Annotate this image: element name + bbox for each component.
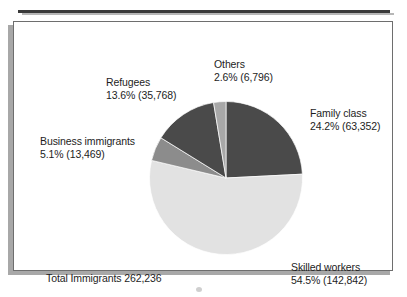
slice-label-refugees: Refugees 13.6% (35,768) <box>106 76 176 101</box>
figure-container: Others 2.6% (6,796) Refugees 13.6% (35,7… <box>0 0 407 297</box>
pie-chart <box>149 101 303 255</box>
chart-panel: Others 2.6% (6,796) Refugees 13.6% (35,7… <box>13 21 393 271</box>
slice-label-refugees-name: Refugees <box>106 76 176 89</box>
scan-artifact <box>196 287 202 292</box>
slice-label-refugees-value: 13.6% (35,768) <box>106 89 176 102</box>
pie-slice-family-class <box>226 102 302 179</box>
slice-label-skilled-workers-name: Skilled workers <box>291 261 367 274</box>
pie-chart-svg <box>149 101 303 255</box>
slice-label-family-class-name: Family class <box>310 107 380 120</box>
top-rule-divider <box>18 10 390 13</box>
slice-label-business-immigrants-name: Business immigrants <box>40 135 135 148</box>
slice-label-family-class-value: 24.2% (63,352) <box>310 120 380 133</box>
slice-label-others: Others 2.6% (6,796) <box>214 58 273 83</box>
slice-label-business-immigrants-value: 5.1% (13,469) <box>40 148 135 161</box>
slice-label-others-value: 2.6% (6,796) <box>214 71 273 84</box>
slice-label-business-immigrants: Business immigrants 5.1% (13,469) <box>40 135 135 160</box>
total-immigrants-label: Total Immigrants 262,236 <box>46 272 162 285</box>
slice-label-family-class: Family class 24.2% (63,352) <box>310 107 380 132</box>
slice-label-skilled-workers-value: 54.5% (142,842) <box>291 274 367 287</box>
slice-label-others-name: Others <box>214 58 273 71</box>
top-rule-shadow <box>22 13 394 15</box>
slice-label-skilled-workers: Skilled workers 54.5% (142,842) <box>291 261 367 286</box>
